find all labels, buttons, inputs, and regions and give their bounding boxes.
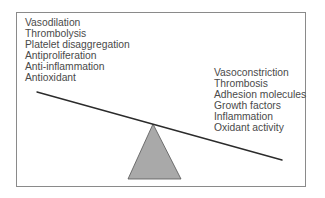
balance-scale-graphic — [0, 0, 325, 198]
fulcrum-triangle — [128, 124, 181, 179]
